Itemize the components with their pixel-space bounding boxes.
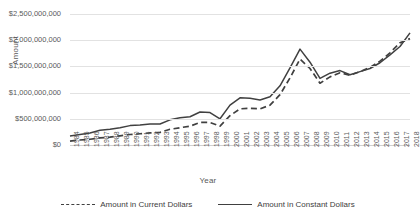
- x-axis-tick-label: 1998: [213, 131, 220, 147]
- x-axis-tick-label: 1985: [83, 131, 90, 147]
- x-axis-tick-label: 2013: [363, 131, 370, 147]
- series-line: [70, 33, 410, 136]
- gridline: [70, 119, 410, 120]
- x-axis-tick-label: 2007: [303, 131, 310, 147]
- x-axis-tick-label: 2010: [333, 131, 340, 147]
- x-axis-tick-label: 1994: [173, 131, 180, 147]
- x-axis-tick-label: 2006: [293, 131, 300, 147]
- legend-label: Amount in Constant Dollars: [257, 200, 354, 209]
- series-line: [70, 39, 410, 141]
- x-axis-tick-label: 2005: [283, 131, 290, 147]
- x-axis-tick-label: 2012: [353, 131, 360, 147]
- y-axis-tick-label: $500,000,000: [0, 115, 61, 123]
- x-axis-tick-label: 2009: [323, 131, 330, 147]
- x-axis-tick-label: 2011: [343, 132, 350, 147]
- x-axis-tick-label: 2002: [253, 131, 260, 147]
- x-axis-tick-label: 2014: [373, 131, 380, 147]
- x-axis-tick-label: 2001: [243, 131, 250, 147]
- x-axis-tick-label: 2015: [383, 131, 390, 147]
- y-axis-title: Amount: [11, 16, 20, 86]
- x-axis-tick-label: 2017: [403, 131, 410, 147]
- legend-item[interactable]: Amount in Current Dollars: [61, 200, 192, 209]
- x-axis-tick-label: 2016: [393, 131, 400, 147]
- y-axis-tick-label: $1,000,000,000: [0, 89, 61, 97]
- x-axis-tick-label: 2008: [313, 131, 320, 147]
- x-axis-tick-label: 2000: [233, 131, 240, 147]
- y-axis-tick-label: $2,000,000,000: [0, 36, 61, 44]
- y-axis-tick-label: $0: [0, 141, 61, 149]
- y-axis-tick-label: $2,500,000,000: [0, 10, 61, 18]
- gridline: [70, 40, 410, 41]
- x-axis-tick-label: 1984: [73, 131, 80, 147]
- x-axis-tick-label: 1990: [133, 131, 140, 147]
- x-axis-tick-label: 1988: [113, 131, 120, 147]
- plot-area: $2,500,000,000$2,000,000,000$1,500,000,0…: [70, 14, 410, 145]
- x-axis-title: Year: [0, 176, 416, 185]
- x-axis-tick-label: 1997: [203, 131, 210, 147]
- x-axis-tick-label: 1992: [153, 131, 160, 147]
- x-axis-tick-labels: 1984198519861987198819891990199119921993…: [70, 147, 410, 177]
- series-lines: [70, 14, 410, 145]
- x-axis-tick-label: 1993: [163, 131, 170, 147]
- chart-legend: Amount in Current DollarsAmount in Const…: [0, 196, 416, 212]
- x-axis-tick-label: 1996: [193, 131, 200, 147]
- x-axis-tick-label: 1999: [223, 131, 230, 147]
- y-axis-tick-label: $1,500,000,000: [0, 62, 61, 70]
- legend-swatch-dashed-line-icon: [61, 204, 95, 205]
- gridline: [70, 14, 410, 15]
- x-axis-tick-label: 1987: [103, 131, 110, 147]
- legend-item[interactable]: Amount in Constant Dollars: [218, 200, 354, 209]
- x-axis-tick-label: 1991: [143, 131, 150, 147]
- x-axis-tick-label: 2018: [413, 131, 420, 147]
- gridline: [70, 93, 410, 94]
- x-axis-tick-label: 2003: [263, 131, 270, 147]
- x-axis-tick-label: 1986: [93, 131, 100, 147]
- legend-swatch-solid-line-icon: [218, 204, 252, 205]
- x-axis-tick-label: 1989: [123, 131, 130, 147]
- legend-label: Amount in Current Dollars: [100, 200, 192, 209]
- gridline: [70, 66, 410, 67]
- x-axis-tick-label: 2004: [273, 131, 280, 147]
- x-axis-tick-label: 1995: [183, 131, 190, 147]
